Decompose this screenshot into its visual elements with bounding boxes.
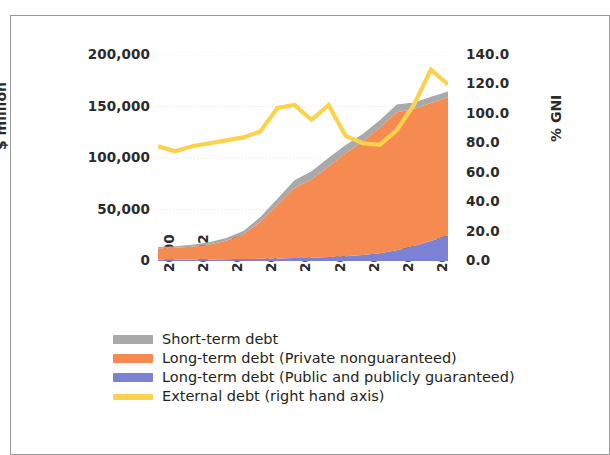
right-axis-tick-4: 80.0	[466, 136, 500, 150]
legend-label-1: Long-term debt (Private nonguaranteed)	[162, 351, 457, 366]
right-axis-tick-1: 20.0	[466, 225, 500, 239]
legend-item-0[interactable]: Short-term debt	[113, 330, 553, 349]
left-axis-tick-0: 0	[58, 254, 150, 268]
plot-svg	[158, 55, 448, 261]
legend-swatch-2	[113, 373, 153, 382]
right-axis-tick-2: 40.0	[466, 195, 500, 209]
left-axis-tick-4: 200,000	[58, 48, 150, 62]
legend-label-2: Long-term debt (Public and publicly guar…	[162, 370, 515, 385]
legend-label-0: Short-term debt	[162, 332, 278, 347]
legend-swatch-0	[113, 335, 153, 344]
legend-item-2[interactable]: Long-term debt (Public and publicly guar…	[113, 368, 553, 387]
legend-swatch-1	[113, 354, 153, 363]
right-axis-tick-0: 0.0	[466, 254, 490, 268]
left-axis-tick-1: 50,000	[58, 203, 150, 217]
right-axis-tick-3: 60.0	[466, 166, 500, 180]
left-axis-title: $ million	[0, 82, 8, 150]
legend-swatch-3	[113, 394, 153, 400]
plot-area	[158, 55, 448, 261]
right-axis-title: % GNI	[549, 95, 563, 142]
left-axis-tick-3: 150,000	[58, 100, 150, 114]
right-axis-tick-5: 100.0	[466, 107, 509, 121]
right-axis-tick-6: 120.0	[466, 77, 509, 91]
chart-legend: Short-term debtLong-term debt (Private n…	[113, 330, 553, 406]
legend-item-1[interactable]: Long-term debt (Private nonguaranteed)	[113, 349, 553, 368]
legend-label-3: External debt (right hand axis)	[162, 389, 385, 404]
left-axis-tick-2: 100,000	[58, 151, 150, 165]
legend-item-3[interactable]: External debt (right hand axis)	[113, 387, 553, 406]
right-axis-tick-7: 140.0	[466, 48, 509, 62]
